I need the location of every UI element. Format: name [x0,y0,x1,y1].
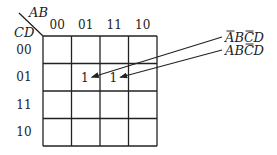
row-headers: 00011110 [16,43,31,140]
minterm-literal: D [253,43,265,58]
col-variable-label: AB [28,5,48,20]
column-header: 10 [135,18,150,32]
cell-value: 1 [109,71,117,85]
minterm-annotations: ABCDABCD [92,30,265,77]
row-header: 00 [16,43,31,57]
karnaugh-map-diagram: AB CD 00011110 00011110 11 ABCDABCD [0,0,277,155]
column-header: 01 [78,18,93,32]
kmap-grid [43,36,157,146]
column-header: 11 [107,18,122,32]
row-header: 01 [16,70,31,84]
minterm-literal: A [224,43,234,58]
minterm-literal: C [244,43,254,58]
column-header: 00 [50,18,65,32]
minterm-literal: B [234,43,245,58]
column-headers: 00011110 [50,18,151,32]
cell-value: 1 [81,71,89,85]
row-header: 10 [16,125,31,139]
kmap-cells: 11 [81,71,117,85]
row-header: 11 [16,98,31,112]
minterm-label: ABCD [224,43,265,58]
row-variable-label: CD [14,25,35,40]
